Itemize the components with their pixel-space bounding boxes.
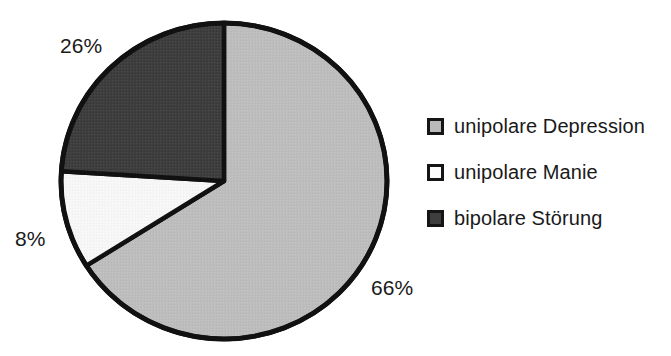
legend-item-unipolare-depression: unipolare Depression bbox=[427, 108, 665, 144]
legend-item-bipolare-stoerung: bipolare Störung bbox=[427, 200, 665, 236]
legend-swatch-icon-unipolare-depression bbox=[427, 118, 444, 135]
legend-label-unipolare-manie: unipolare Manie bbox=[454, 161, 598, 183]
legend-label-bipolare-stoerung: bipolare Störung bbox=[454, 207, 602, 229]
pie-svg bbox=[58, 20, 390, 342]
pie-label-unipolare-manie-percent: 8% bbox=[15, 228, 46, 249]
legend-swatch-icon-bipolare-stoerung bbox=[427, 210, 444, 227]
legend-label-unipolare-depression: unipolare Depression bbox=[454, 115, 645, 137]
pie-chart-figure: 26% 8% 66% unipolare Depression unipolar… bbox=[0, 0, 671, 356]
legend-item-unipolare-manie: unipolare Manie bbox=[427, 154, 665, 190]
pie-chart-graphic bbox=[58, 20, 390, 342]
pie-label-bipolare-stoerung-percent: 26% bbox=[60, 35, 102, 56]
chart-legend: unipolare Depression unipolare Manie bip… bbox=[427, 108, 665, 236]
pie-label-unipolare-depression-percent: 66% bbox=[371, 277, 413, 298]
legend-swatch-icon-unipolare-manie bbox=[427, 164, 444, 181]
